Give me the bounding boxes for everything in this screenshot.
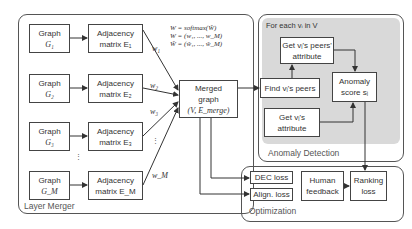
connector-arrows (0, 0, 412, 229)
